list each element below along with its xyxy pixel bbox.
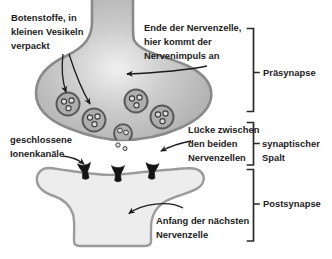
label-line: geschlossene [10, 133, 72, 147]
label-line: den beiden [188, 137, 259, 151]
label-line: Ende der Nervenzelle, [144, 21, 241, 35]
label-line: Botenstoffe, in [11, 11, 83, 25]
label-line: hier kommt der [144, 35, 241, 49]
label-line: synaptischer [262, 137, 320, 151]
label-praesynapse: Präsynapse [263, 66, 316, 80]
synaptic-vesicle [57, 93, 80, 116]
label-geschlossene-ionenkanaele: geschlossene Ionenkanäle [10, 133, 72, 161]
label-line: Anfang der nächsten [156, 214, 249, 228]
label-line: kleinen Vesikeln [11, 25, 83, 39]
label-line: verpackt [11, 39, 83, 53]
label-postsynapse: Postsynapse [263, 197, 321, 211]
label-anfang-naechste-nervenzelle: Anfang der nächsten Nervenzelle [156, 214, 249, 242]
label-botenstoffe: Botenstoffe, in kleinen Vesikeln verpack… [11, 11, 83, 53]
fusing-vesicle [114, 124, 132, 150]
label-line: Nervenzellen [188, 151, 259, 165]
released-neurotransmitter-dot [123, 147, 127, 151]
synapse-diagram: Botenstoffe, in kleinen Vesikeln verpack… [0, 0, 332, 259]
arrow-to-cleft [161, 141, 191, 151]
bracket-praesynapse [248, 29, 260, 112]
label-ende-der-nervenzelle: Ende der Nervenzelle, hier kommt der Ner… [144, 21, 241, 63]
synaptic-vesicle [125, 90, 148, 113]
label-line: Spalt [262, 151, 320, 165]
synaptic-vesicle [83, 109, 106, 132]
label-luecke: Lücke zwischen den beiden Nervenzellen [188, 123, 259, 165]
label-line: Nervenzelle [156, 228, 249, 242]
label-line: Ionenkanäle [10, 147, 72, 161]
label-synaptischer-spalt: synaptischer Spalt [262, 137, 320, 165]
label-line: Lücke zwischen [188, 123, 259, 137]
released-neurotransmitter-dot [116, 143, 120, 147]
label-line: Nervenimpuls an [144, 49, 241, 63]
synaptic-vesicle [151, 106, 174, 129]
